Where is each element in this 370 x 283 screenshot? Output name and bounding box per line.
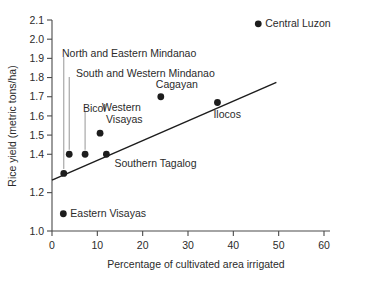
data-point xyxy=(255,20,262,27)
rice-yield-scatter-chart: 1.01.21.41.51.61.71.81.92.02.1 010203040… xyxy=(0,0,370,283)
y-tick-label: 1.5 xyxy=(29,129,44,141)
data-point xyxy=(157,93,164,100)
x-tick-label: 50 xyxy=(273,239,285,251)
point-label: Visayas xyxy=(106,113,143,125)
point-label: Western xyxy=(102,101,141,113)
plot-area: 1.01.21.41.51.61.71.81.92.02.1 010203040… xyxy=(0,0,370,283)
data-point xyxy=(214,99,221,106)
data-point xyxy=(66,151,73,158)
x-tick-label: 40 xyxy=(227,239,239,251)
point-label: Eastern Visayas xyxy=(70,207,146,219)
y-tick-label: 1.7 xyxy=(29,90,44,102)
data-point xyxy=(82,151,89,158)
data-point xyxy=(60,170,67,177)
y-tick-label: 1.4 xyxy=(29,148,44,160)
x-tick-label: 10 xyxy=(91,239,103,251)
x-tick-label: 0 xyxy=(49,239,55,251)
data-point xyxy=(97,130,104,137)
y-tick-label: 1.9 xyxy=(29,52,44,64)
y-tick-label: 2.0 xyxy=(29,33,44,45)
y-tick-label: 1.8 xyxy=(29,71,44,83)
y-tick-label: 1.0 xyxy=(29,225,44,237)
point-labels-group: Central LuzonNorth and Eastern MindanaoS… xyxy=(62,17,331,219)
x-tick-label: 20 xyxy=(137,239,149,251)
y-tick-label: 1.2 xyxy=(29,186,44,198)
x-tick-label: 30 xyxy=(182,239,194,251)
data-point xyxy=(60,210,67,217)
point-label: Cagayan xyxy=(156,78,198,90)
y-axis-ticks: 1.01.21.41.51.61.71.81.92.02.1 xyxy=(29,14,52,237)
x-axis-title: Percentage of cultivated area irrigated xyxy=(107,258,285,270)
point-label: Southern Tagalog xyxy=(114,157,196,169)
y-axis-title: Rice yield (metric tons/ha) xyxy=(6,65,18,186)
x-axis-ticks: 0102030405060 xyxy=(49,231,330,251)
point-label: Central Luzon xyxy=(265,17,331,29)
x-tick-label: 60 xyxy=(318,239,330,251)
point-label: Ilocos xyxy=(213,108,240,120)
point-label: North and Eastern Mindanao xyxy=(62,47,196,59)
data-point xyxy=(103,151,110,158)
y-tick-label: 2.1 xyxy=(29,14,44,26)
y-tick-label: 1.6 xyxy=(29,110,44,122)
